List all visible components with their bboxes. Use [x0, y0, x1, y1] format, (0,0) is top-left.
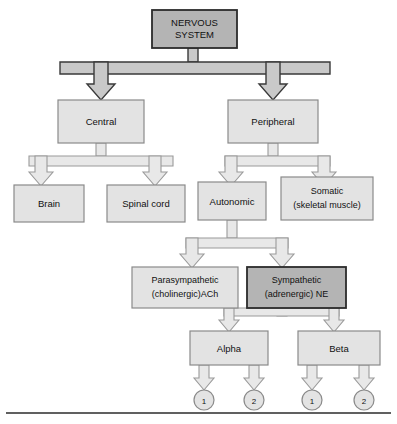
node-sympathetic-label-2: (adrenergic) NE [265, 289, 329, 299]
node-beta-label: Beta [329, 343, 349, 354]
nervous-system-flowchart: NERVOUS SYSTEM Central Peripheral Brain … [0, 0, 397, 424]
node-peripheral-label: Peripheral [251, 116, 294, 127]
node-autonomic-label: Autonomic [210, 196, 255, 207]
node-somatic-box [281, 177, 373, 220]
node-autonomic[interactable]: Autonomic [198, 182, 266, 220]
node-parasympathetic-label-2: (cholinergic)ACh [152, 289, 219, 299]
node-spinal-cord-label: Spinal cord [122, 198, 170, 209]
node-beta-2[interactable]: 2 [354, 390, 374, 410]
node-alpha[interactable]: Alpha [190, 331, 268, 365]
node-alpha-1-label: 1 [202, 397, 207, 406]
node-spinal-cord[interactable]: Spinal cord [107, 185, 185, 222]
node-central-label: Central [86, 116, 117, 127]
edge-autonomic-bus [186, 238, 288, 248]
node-somatic-label-2: (skeletal muscle) [293, 200, 361, 210]
node-somatic[interactable]: Somatic (skeletal muscle) [281, 177, 373, 220]
node-alpha-2-label: 2 [252, 397, 257, 406]
node-beta-1-label: 1 [310, 397, 315, 406]
edge-autonomic-stem [227, 220, 237, 238]
node-parasympathetic-label-1: Parasympathetic [151, 275, 219, 285]
node-sympathetic-box [247, 267, 346, 308]
edge-peripheral-stem [268, 143, 278, 156]
node-alpha-1[interactable]: 1 [194, 390, 214, 410]
node-central[interactable]: Central [58, 100, 144, 143]
edge-sympathetic-bus [224, 308, 339, 316]
node-somatic-label-1: Somatic [311, 186, 344, 196]
node-nervous-system-label-2: SYSTEM [175, 29, 214, 40]
edge-peripheral-bus [225, 156, 330, 166]
node-sympathetic[interactable]: Sympathetic (adrenergic) NE [247, 267, 346, 308]
edge-central-stem [96, 143, 106, 156]
node-parasympathetic-box [132, 267, 238, 308]
node-nervous-system-label-1: NERVOUS [171, 17, 218, 28]
node-alpha-2[interactable]: 2 [244, 390, 264, 410]
node-brain[interactable]: Brain [14, 185, 84, 222]
node-beta-1[interactable]: 1 [302, 390, 322, 410]
node-peripheral[interactable]: Peripheral [228, 100, 318, 143]
node-brain-label: Brain [38, 198, 60, 209]
edge-root-stem [188, 48, 198, 62]
node-sympathetic-label-1: Sympathetic [272, 275, 322, 285]
node-beta-2-label: 2 [362, 397, 367, 406]
node-nervous-system[interactable]: NERVOUS SYSTEM [152, 10, 237, 48]
node-beta[interactable]: Beta [298, 331, 380, 365]
node-parasympathetic[interactable]: Parasympathetic (cholinergic)ACh [132, 267, 238, 308]
node-alpha-label: Alpha [217, 343, 242, 354]
